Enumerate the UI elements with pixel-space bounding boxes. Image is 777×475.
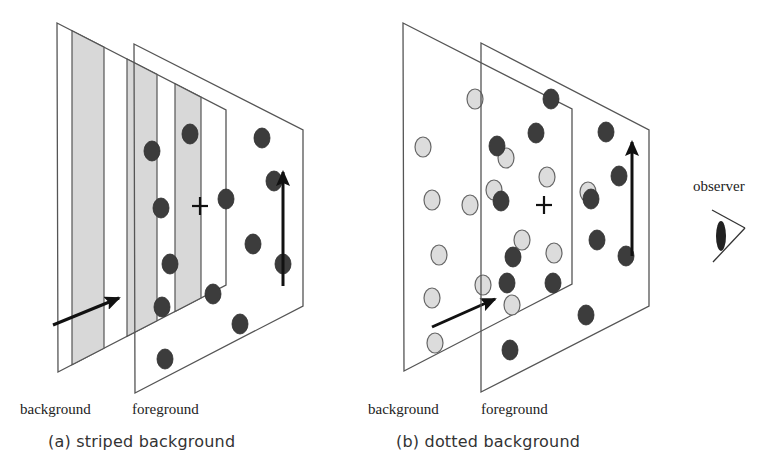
- dark-dot: [162, 254, 178, 274]
- dark-dot: [598, 122, 614, 142]
- light-dot: [431, 245, 447, 265]
- dark-dot: [254, 128, 270, 148]
- dark-dot: [578, 305, 594, 325]
- dark-dot: [528, 123, 544, 143]
- dark-dot: [245, 234, 261, 254]
- light-dot: [424, 288, 440, 308]
- light-dot: [424, 190, 440, 210]
- dark-dot: [499, 273, 515, 293]
- panel-b-caption: (b) dotted background: [396, 432, 580, 451]
- dark-dot: [611, 166, 627, 186]
- dark-dot: [266, 171, 282, 191]
- dark-dot: [154, 297, 170, 317]
- light-dot: [514, 230, 530, 250]
- dark-dot: [489, 136, 505, 156]
- panel-striped-background: [53, 23, 303, 393]
- stripe: [175, 84, 201, 312]
- dark-dot: [493, 191, 509, 211]
- dark-dot: [583, 189, 599, 209]
- dark-dot: [543, 89, 559, 109]
- dark-dot: [505, 247, 521, 267]
- observer-label: observer: [693, 178, 745, 195]
- light-dot: [427, 333, 443, 353]
- panel-b-foreground-label: foreground: [481, 401, 548, 418]
- dark-dot: [232, 314, 248, 334]
- light-dot: [546, 243, 562, 263]
- light-dot: [462, 195, 478, 215]
- dark-dot: [157, 349, 173, 369]
- light-dot: [415, 137, 431, 157]
- observer-eye-icon: [712, 210, 745, 262]
- panel-a-caption: (a) striped background: [48, 432, 235, 451]
- dark-dot: [182, 124, 198, 144]
- dark-dot: [218, 189, 234, 209]
- light-dot: [475, 275, 491, 295]
- dark-dot: [153, 198, 169, 218]
- dark-dot: [545, 273, 561, 293]
- panel-a-foreground-label: foreground: [132, 401, 199, 418]
- dark-dot: [205, 284, 221, 304]
- light-dot: [504, 295, 520, 315]
- panel-b-background-label: background: [368, 401, 439, 418]
- panel-dotted-background: [403, 23, 649, 392]
- light-dot: [539, 167, 555, 187]
- panel-a-background-label: background: [20, 401, 91, 418]
- dark-dot: [589, 230, 605, 250]
- stripe: [127, 59, 157, 336]
- dark-dot: [502, 340, 518, 360]
- dark-dot: [144, 141, 160, 161]
